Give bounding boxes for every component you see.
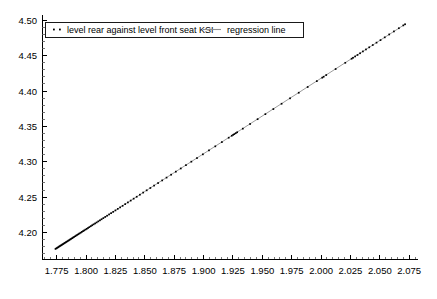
y-axis-tick-label: 4.20 bbox=[19, 227, 38, 238]
data-point bbox=[404, 23, 406, 25]
data-point bbox=[157, 182, 159, 184]
legend: level rear against level front seat KSIr… bbox=[45, 22, 303, 37]
data-point bbox=[362, 51, 364, 53]
data-point bbox=[289, 97, 291, 99]
data-point bbox=[384, 37, 386, 39]
data-point bbox=[185, 164, 187, 166]
y-axis-tick-label: 4.30 bbox=[19, 156, 38, 167]
y-axis-tick-label: 4.50 bbox=[19, 15, 38, 26]
data-point bbox=[398, 27, 400, 29]
data-point bbox=[96, 222, 98, 224]
data-point bbox=[175, 171, 177, 173]
data-point bbox=[388, 34, 390, 36]
data-point bbox=[376, 42, 378, 44]
data-point bbox=[139, 194, 141, 196]
y-axis-tick-label: 4.40 bbox=[19, 86, 38, 97]
x-axis-tick-label: 1.950 bbox=[250, 265, 274, 276]
x-axis-tick-label: 1.975 bbox=[280, 265, 304, 276]
data-point bbox=[368, 46, 370, 48]
y-axis-tick-label: 4.35 bbox=[19, 121, 38, 132]
data-point bbox=[307, 86, 309, 88]
data-point bbox=[402, 25, 404, 27]
data-point bbox=[94, 223, 96, 225]
y-axis-tick-labels: 4.504.454.404.354.304.254.20 bbox=[19, 15, 38, 238]
data-point bbox=[359, 52, 361, 54]
data-point bbox=[106, 215, 108, 217]
data-point bbox=[242, 128, 244, 130]
data-point bbox=[115, 210, 117, 212]
x-axis-tick-label: 1.800 bbox=[74, 265, 98, 276]
x-axis-tick-label: 2.025 bbox=[339, 265, 363, 276]
x-axis-tick-label: 2.075 bbox=[397, 265, 421, 276]
legend-point-marker bbox=[59, 29, 61, 31]
data-point bbox=[265, 113, 267, 115]
data-point bbox=[112, 211, 114, 213]
x-axis-tick-label: 1.775 bbox=[45, 265, 69, 276]
data-point bbox=[393, 31, 395, 33]
data-point bbox=[99, 219, 101, 221]
data-point bbox=[365, 49, 367, 51]
legend-label-regression-line: regression line bbox=[227, 25, 286, 35]
data-point bbox=[214, 145, 216, 147]
data-point bbox=[316, 80, 318, 82]
axis-ticks bbox=[42, 20, 415, 259]
y-axis-tick-label: 4.25 bbox=[19, 192, 38, 203]
data-point bbox=[352, 57, 354, 59]
data-point bbox=[127, 202, 129, 204]
data-point bbox=[236, 131, 238, 133]
chart-container: 1.7751.8001.8251.8501.8751.9001.9251.950… bbox=[0, 0, 437, 299]
data-point bbox=[180, 168, 182, 170]
x-axis-tick-label: 2.050 bbox=[368, 265, 392, 276]
x-axis-tick-label: 1.825 bbox=[104, 265, 128, 276]
data-point bbox=[108, 214, 110, 216]
data-point bbox=[190, 161, 192, 163]
data-point bbox=[257, 118, 259, 120]
data-point bbox=[298, 92, 300, 94]
data-point bbox=[208, 150, 210, 152]
data-point bbox=[130, 200, 132, 202]
data-point bbox=[344, 62, 346, 64]
data-point bbox=[149, 187, 151, 189]
x-axis-tick-label: 2.000 bbox=[309, 265, 333, 276]
data-point bbox=[161, 180, 163, 182]
scatter-plot: 1.7751.8001.8251.8501.8751.9001.9251.950… bbox=[0, 0, 437, 299]
data-point bbox=[146, 189, 148, 191]
data-point bbox=[119, 207, 121, 209]
data-point bbox=[97, 221, 99, 223]
data-point bbox=[166, 177, 168, 179]
legend-point-marker bbox=[53, 29, 55, 31]
data-point bbox=[122, 205, 124, 207]
data-point bbox=[101, 218, 103, 220]
data-point bbox=[117, 208, 119, 210]
data-point bbox=[273, 108, 275, 110]
data-point bbox=[136, 196, 138, 198]
x-axis-tick-labels: 1.7751.8001.8251.8501.8751.9001.9251.950… bbox=[45, 265, 421, 276]
data-point bbox=[228, 137, 230, 139]
x-axis-tick-label: 1.850 bbox=[133, 265, 157, 276]
data-point bbox=[142, 192, 144, 194]
data-point bbox=[170, 174, 172, 176]
data-point bbox=[380, 39, 382, 41]
legend-label-data-series: level rear against level front seat KSI bbox=[67, 25, 214, 35]
data-point bbox=[325, 74, 327, 76]
data-point bbox=[249, 123, 251, 125]
x-axis-tick-label: 1.900 bbox=[192, 265, 216, 276]
data-point bbox=[110, 212, 112, 214]
data-point bbox=[354, 56, 356, 58]
data-point bbox=[221, 141, 223, 143]
y-axis-tick-label: 4.45 bbox=[19, 50, 38, 61]
data-point bbox=[124, 203, 126, 205]
data-point bbox=[93, 223, 95, 225]
data-point bbox=[153, 185, 155, 187]
data-point bbox=[335, 68, 337, 70]
data-point bbox=[196, 157, 198, 159]
data-point bbox=[281, 103, 283, 105]
data-point bbox=[102, 217, 104, 219]
data-point bbox=[323, 76, 325, 78]
data-point bbox=[104, 216, 106, 218]
data-point bbox=[133, 198, 135, 200]
data-point bbox=[357, 54, 359, 56]
data-point bbox=[202, 153, 204, 155]
x-axis-tick-label: 1.925 bbox=[221, 265, 245, 276]
x-axis-tick-label: 1.875 bbox=[162, 265, 186, 276]
